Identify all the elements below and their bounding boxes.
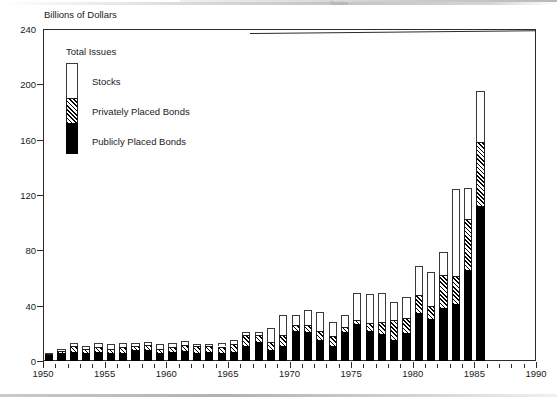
chart-legend: Total Issues Stocks Privately Placed Bon…: [62, 46, 272, 57]
bar-segment-stocks: [329, 322, 337, 336]
bar-segment-stocks: [279, 315, 287, 334]
bar-segment-privately-placed-bonds: [366, 323, 374, 331]
bar-segment-publicly-placed-bonds: [94, 352, 102, 361]
bar-segment-privately-placed-bonds: [402, 318, 410, 333]
bar-segment-publicly-placed-bonds: [439, 308, 447, 361]
x-axis-tick-label: 1975: [341, 368, 362, 379]
bar-1970: [292, 315, 300, 361]
bar-1969: [279, 315, 287, 361]
bar-segment-publicly-placed-bonds: [205, 352, 213, 361]
bar-segment-privately-placed-bonds: [476, 142, 484, 206]
bar-1953: [82, 346, 90, 361]
bar-segment-publicly-placed-bonds: [82, 353, 90, 361]
bar-1967: [255, 332, 263, 361]
bar-segment-stocks: [304, 310, 312, 325]
legend-label-publicly-placed-bonds: Publicly Placed Bonds: [92, 136, 186, 147]
bar-segment-privately-placed-bonds: [415, 295, 423, 314]
bar-1962: [193, 344, 201, 361]
legend-label-stocks: Stocks: [92, 76, 121, 87]
bar-1963: [205, 344, 213, 361]
y-axis-tick-label: 0: [6, 356, 36, 367]
bar-1961: [181, 341, 189, 361]
bar-1965: [230, 340, 238, 361]
bar-segment-privately-placed-bonds: [427, 306, 435, 318]
bar-1972: [316, 312, 324, 361]
bar-segment-privately-placed-bonds: [439, 275, 447, 308]
bar-segment-publicly-placed-bonds: [156, 353, 164, 361]
bar-segment-stocks: [366, 294, 374, 323]
bar-segment-publicly-placed-bonds: [316, 340, 324, 361]
bar-1959: [156, 344, 164, 361]
bar-segment-publicly-placed-bonds: [279, 346, 287, 361]
bar-segment-privately-placed-bonds: [390, 320, 398, 341]
bar-segment-publicly-placed-bonds: [402, 333, 410, 361]
y-axis-tick-label: 80: [6, 245, 36, 256]
x-axis-tick-label: 1950: [32, 368, 53, 379]
bar-segment-publicly-placed-bonds: [57, 353, 65, 361]
bar-segment-publicly-placed-bonds: [218, 353, 226, 361]
bar-segment-privately-placed-bonds: [329, 336, 337, 346]
bar-segment-publicly-placed-bonds: [304, 332, 312, 361]
bar-segment-publicly-placed-bonds: [415, 313, 423, 361]
bar-1976: [366, 294, 374, 361]
bar-1980: [415, 266, 423, 361]
bar-segment-publicly-placed-bonds: [168, 352, 176, 361]
bar-1954: [94, 343, 102, 361]
x-axis-tick-label: 1985: [464, 368, 485, 379]
bar-segment-publicly-placed-bonds: [476, 206, 484, 361]
stacked-bar-chart: Billions of Dollars 04080120160200240 19…: [0, 0, 557, 401]
bar-1960: [168, 343, 176, 361]
bar-segment-publicly-placed-bonds: [70, 352, 78, 361]
y-axis-tick-label: 240: [6, 24, 36, 35]
bar-1981: [427, 272, 435, 361]
x-axis-tick-label: 1980: [402, 368, 423, 379]
bar-segment-privately-placed-bonds: [452, 276, 460, 304]
bar-1983: [452, 189, 460, 361]
bar-1971: [304, 310, 312, 361]
bar-segment-publicly-placed-bonds: [107, 353, 115, 361]
y-axis-title: Billions of Dollars: [44, 9, 117, 20]
y-axis-tick-label: 40: [6, 300, 36, 311]
x-axis-labels: 195019551960196519701975198019851990: [0, 368, 557, 384]
x-axis-ticks: [43, 361, 537, 368]
bar-segment-privately-placed-bonds: [242, 335, 250, 346]
x-axis-tick-label: 1965: [217, 368, 238, 379]
bar-1957: [131, 343, 139, 361]
bar-segment-publicly-placed-bonds: [242, 346, 250, 361]
bar-1975: [353, 293, 361, 361]
bar-1955: [107, 344, 115, 361]
x-axis-tick-label: 1960: [156, 368, 177, 379]
bar-segment-publicly-placed-bonds: [353, 324, 361, 361]
bar-segment-publicly-placed-bonds: [427, 319, 435, 361]
bar-segment-stocks: [415, 266, 423, 294]
bar-1973: [329, 322, 337, 361]
bar-segment-stocks: [390, 302, 398, 319]
bar-segment-stocks: [464, 188, 472, 218]
bar-segment-stocks: [439, 252, 447, 276]
bar-segment-publicly-placed-bonds: [390, 340, 398, 361]
bar-1985: [476, 91, 484, 361]
bar-segment-stocks: [378, 293, 386, 321]
bar-1950: [45, 353, 53, 361]
bar-1977: [378, 293, 386, 361]
x-axis-tick-label: 1970: [279, 368, 300, 379]
bar-segment-publicly-placed-bonds: [464, 270, 472, 361]
bar-segment-privately-placed-bonds: [255, 335, 263, 343]
bar-segment-stocks: [402, 297, 410, 318]
bar-segment-publicly-placed-bonds: [193, 353, 201, 361]
bar-1964: [218, 343, 226, 361]
bar-segment-privately-placed-bonds: [279, 335, 287, 346]
legend-swatch-stocks: [66, 63, 78, 98]
bar-segment-stocks: [427, 272, 435, 307]
bar-segment-stocks: [476, 91, 484, 142]
bar-segment-stocks: [316, 312, 324, 331]
legend-swatch-stack: [66, 63, 78, 154]
x-axis-tick-label: 1990: [525, 368, 546, 379]
bar-segment-privately-placed-bonds: [316, 331, 324, 340]
bar-segment-publicly-placed-bonds: [452, 304, 460, 361]
bar-1984: [464, 188, 472, 361]
legend-label-privately-placed-bonds: Privately Placed Bonds: [92, 106, 190, 117]
bar-segment-privately-placed-bonds: [378, 322, 386, 334]
y-axis-tick-label: 160: [6, 134, 36, 145]
bar-segment-publicly-placed-bonds: [131, 350, 139, 361]
